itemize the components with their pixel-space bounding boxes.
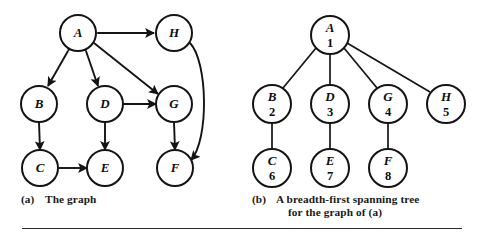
graph-node-g-label: G: [169, 96, 179, 111]
tree-node-d[interactable]: D 3: [311, 85, 349, 123]
tree-node-e-number: 7: [327, 169, 333, 183]
tree-node-b-label: B: [267, 89, 277, 104]
graph-node-d[interactable]: D: [87, 86, 123, 122]
tree-node-h[interactable]: H 5: [427, 85, 465, 123]
tree-node-c-label: C: [268, 153, 277, 168]
edge-b-c: [39, 122, 40, 150]
graph-node-c-label: C: [36, 160, 45, 175]
graph-node-e[interactable]: E: [87, 150, 123, 186]
edge-a-d: [86, 51, 98, 86]
caption-panel-b: (b)A breadth-first spanning tree for the…: [252, 193, 419, 218]
caption-panel-b-line2: for the graph of (a): [288, 206, 419, 218]
tree-node-e-label: E: [325, 153, 335, 168]
graph-node-b[interactable]: B: [21, 86, 57, 122]
tree-node-a[interactable]: A 1: [311, 16, 349, 54]
graph-node-b-label: B: [34, 96, 44, 111]
tree-node-f[interactable]: F 8: [369, 149, 407, 187]
tree-node-a-number: 1: [327, 36, 333, 50]
tree-node-b[interactable]: B 2: [253, 85, 291, 123]
tree-edge-a-b: [283, 48, 316, 88]
tree-node-e[interactable]: E 7: [311, 149, 349, 187]
graph-node-d-label: D: [99, 96, 110, 111]
tree-node-h-label: H: [440, 89, 452, 104]
graph-node-a[interactable]: A: [60, 15, 96, 51]
graph-node-g[interactable]: G: [156, 86, 192, 122]
bottom-divider-rule: [22, 228, 462, 229]
tree-node-b-number: 2: [269, 105, 275, 119]
tree-node-c[interactable]: C 6: [253, 149, 291, 187]
tree-node-d-label: D: [324, 89, 335, 104]
graph-node-f[interactable]: F: [157, 150, 193, 186]
panel-b-nodes: A 1 B 2 D 3 G 4 H 5: [253, 16, 465, 187]
tree-edge-a-g: [344, 48, 377, 88]
caption-panel-a: (a)The graph: [21, 193, 96, 205]
tree-node-g[interactable]: G 4: [369, 85, 407, 123]
graph-node-a-label: A: [73, 25, 83, 40]
caption-panel-b-line1: A breadth-first spanning tree: [276, 193, 419, 205]
graph-node-c[interactable]: C: [22, 150, 58, 186]
tree-node-f-label: F: [383, 153, 393, 168]
tree-node-g-number: 4: [385, 105, 392, 119]
graph-node-h[interactable]: H: [156, 15, 192, 51]
tree-node-h-number: 5: [443, 105, 449, 119]
caption-panel-b-tag: (b): [252, 193, 276, 205]
panel-a-nodes: A H B D G C E: [21, 15, 193, 186]
tree-node-c-number: 6: [269, 169, 275, 183]
edge-a-b: [48, 51, 68, 86]
tree-node-d-number: 3: [327, 105, 333, 119]
tree-node-g-label: G: [383, 89, 393, 104]
graph-node-h-label: H: [168, 25, 180, 40]
figure-container: A H B D G C E: [0, 0, 480, 237]
edge-g-f: [174, 122, 175, 150]
caption-panel-a-text: The graph: [45, 193, 96, 205]
tree-node-a-label: A: [325, 20, 335, 35]
caption-panel-a-tag: (a): [21, 193, 45, 205]
graph-node-e-label: E: [100, 160, 110, 175]
graph-node-f-label: F: [170, 160, 180, 175]
tree-node-f-number: 8: [385, 169, 391, 183]
